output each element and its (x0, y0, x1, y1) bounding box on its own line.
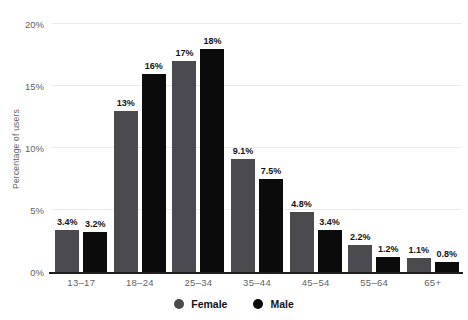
bar-group: 2.2%1.2% (345, 24, 404, 272)
bar-female: 3.4% (55, 230, 79, 272)
bar-male: 0.8% (435, 262, 459, 272)
y-tick-label: 15% (0, 81, 44, 92)
bar-female: 13% (114, 111, 138, 272)
bar-female: 17% (172, 61, 196, 272)
bar-value-label: 9.1% (233, 146, 254, 156)
legend-swatch-icon (174, 299, 184, 309)
bar-value-label: 16% (145, 61, 163, 71)
bar-female: 2.2% (348, 245, 372, 272)
bar-value-label: 17% (175, 48, 193, 58)
bar-groups: 3.4%3.2%13%16%17%18%9.1%7.5%4.8%3.4%2.2%… (52, 24, 462, 272)
x-axis-line (49, 272, 463, 274)
bar-female: 4.8% (290, 212, 314, 272)
bar-male: 7.5% (259, 179, 283, 272)
plot-area: 3.4%3.2%13%16%17%18%9.1%7.5%4.8%3.4%2.2%… (52, 24, 462, 272)
bar-group: 9.1%7.5% (228, 24, 287, 272)
legend-label: Female (191, 298, 227, 310)
bar-value-label: 1.2% (378, 244, 399, 254)
bar-female: 9.1% (231, 159, 255, 272)
x-tick-label: 55–64 (345, 277, 404, 288)
x-tick-label: 18–24 (111, 277, 170, 288)
bar-value-label: 18% (203, 36, 221, 46)
x-tick-label: 65+ (403, 277, 462, 288)
bar-male: 3.4% (318, 230, 342, 272)
bar-male: 1.2% (376, 257, 400, 272)
bar-value-label: 7.5% (261, 166, 282, 176)
legend-swatch-icon (253, 299, 263, 309)
x-tick-label: 45–54 (286, 277, 345, 288)
x-tick-label: 13–17 (52, 277, 111, 288)
bar-value-label: 1.1% (408, 245, 429, 255)
legend: FemaleMale (0, 298, 468, 310)
y-tick-label: 10% (0, 143, 44, 154)
bar-group: 13%16% (111, 24, 170, 272)
bar-group: 3.4%3.2% (52, 24, 111, 272)
x-tick-label: 35–44 (228, 277, 287, 288)
bar-male: 18% (200, 49, 224, 272)
y-tick-label: 5% (0, 205, 44, 216)
bar-value-label: 0.8% (436, 249, 457, 259)
y-tick-label: 0% (0, 267, 44, 278)
bar-male: 3.2% (83, 232, 107, 272)
bar-group: 4.8%3.4% (286, 24, 345, 272)
x-tick-label: 25–34 (169, 277, 228, 288)
bar-value-label: 3.4% (319, 217, 340, 227)
bar-male: 16% (142, 74, 166, 272)
bar-value-label: 13% (117, 98, 135, 108)
bar-value-label: 4.8% (291, 199, 312, 209)
bar-female: 1.1% (407, 258, 431, 272)
bar-chart: Percentage of users 0%5%10%15%20% 3.4%3.… (0, 0, 468, 320)
bar-value-label: 3.4% (57, 217, 78, 227)
x-axis-tick-labels: 13–1718–2425–3435–4445–5455–6465+ (52, 277, 462, 288)
bar-value-label: 2.2% (350, 232, 371, 242)
legend-item-male: Male (253, 298, 293, 310)
legend-label: Male (270, 298, 293, 310)
bar-group: 1.1%0.8% (403, 24, 462, 272)
legend-item-female: Female (174, 298, 227, 310)
bar-value-label: 3.2% (85, 219, 106, 229)
y-tick-label: 20% (0, 19, 44, 30)
bar-group: 17%18% (169, 24, 228, 272)
